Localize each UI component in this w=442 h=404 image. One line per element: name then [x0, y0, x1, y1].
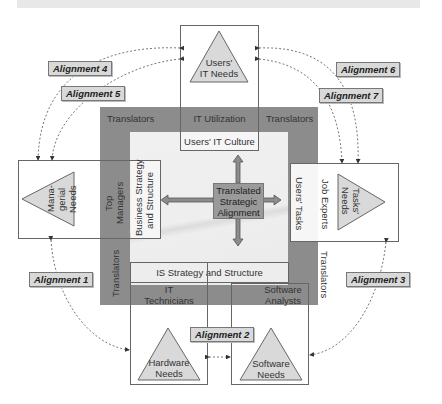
alignment-1-connector [51, 240, 129, 350]
hardware-line2: Needs [155, 368, 182, 379]
alignment-3-connector [310, 242, 386, 355]
alignment-7-label: Alignment 7 [319, 88, 383, 103]
managerial-line3: Needs [67, 185, 78, 212]
alignment-3-label: Alignment 3 [346, 272, 410, 287]
hardware-line1: Hardware [148, 357, 189, 368]
managerial-line2: gerial [56, 187, 67, 210]
users-it-needs-line2: IT Needs [200, 68, 238, 79]
software-needs-label: Software Needs [242, 358, 300, 380]
alignment-5-label: Alignment 5 [61, 86, 125, 101]
alignment-4-label: Alignment 4 [48, 61, 112, 76]
users-it-needs-label: Users' IT Needs [190, 57, 248, 79]
software-line1: Software [252, 358, 290, 369]
center-line1: Translated [216, 185, 261, 196]
alignment-1-label: Alignment 1 [29, 272, 93, 287]
managerial-needs-label: Mana- gerial Needs [45, 176, 78, 222]
tasks-needs-label: Tasks' Needs [340, 178, 362, 224]
alignment-7-connector [259, 59, 342, 163]
center-line3: Alignment [217, 207, 259, 218]
alignment-6-label: Alignment 6 [336, 62, 400, 77]
users-it-needs-line1: Users' [206, 57, 233, 68]
center-line2: Strategic [220, 196, 258, 207]
tasks-needs-line1: Tasks' [351, 188, 362, 214]
alignment-2-label: Alignment 2 [190, 327, 254, 342]
managerial-line1: Mana- [45, 186, 56, 213]
translated-strategic-alignment: Translated Strategic Alignment [213, 183, 264, 219]
hardware-needs-label: Hardware Needs [140, 357, 198, 379]
software-line2: Needs [257, 369, 284, 380]
tasks-needs-line2: Needs [340, 187, 351, 214]
